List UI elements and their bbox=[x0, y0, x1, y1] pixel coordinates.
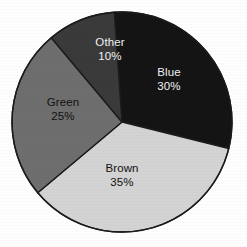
pie-chart-canvas bbox=[0, 0, 247, 247]
pie-chart: Blue30%Brown35%Green25%Other10% bbox=[0, 0, 247, 247]
